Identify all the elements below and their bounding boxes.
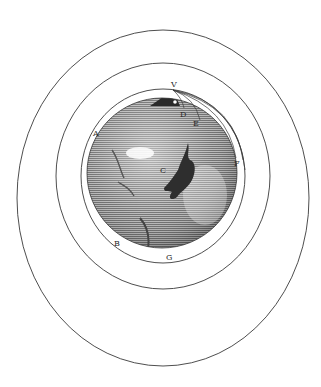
earth-globe bbox=[80, 90, 250, 260]
label-b: B bbox=[114, 239, 120, 248]
label-f: F bbox=[234, 159, 240, 168]
newton-cannon-diagram: V D E A C F B G bbox=[0, 0, 321, 387]
label-a: A bbox=[92, 129, 99, 138]
light-region bbox=[126, 147, 154, 159]
label-e: E bbox=[193, 119, 199, 128]
label-c: C bbox=[160, 166, 166, 175]
label-g: G bbox=[166, 253, 172, 262]
label-d: D bbox=[180, 110, 186, 119]
label-v: V bbox=[170, 80, 177, 89]
